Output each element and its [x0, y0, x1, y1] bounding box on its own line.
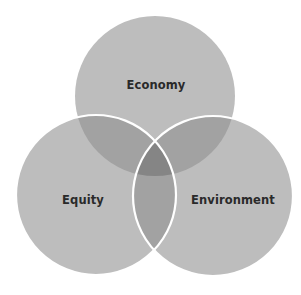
environment-label: Environment	[191, 193, 275, 207]
equity-label: Equity	[62, 193, 104, 207]
economy-label: Economy	[127, 78, 186, 92]
venn-diagram	[0, 0, 301, 295]
